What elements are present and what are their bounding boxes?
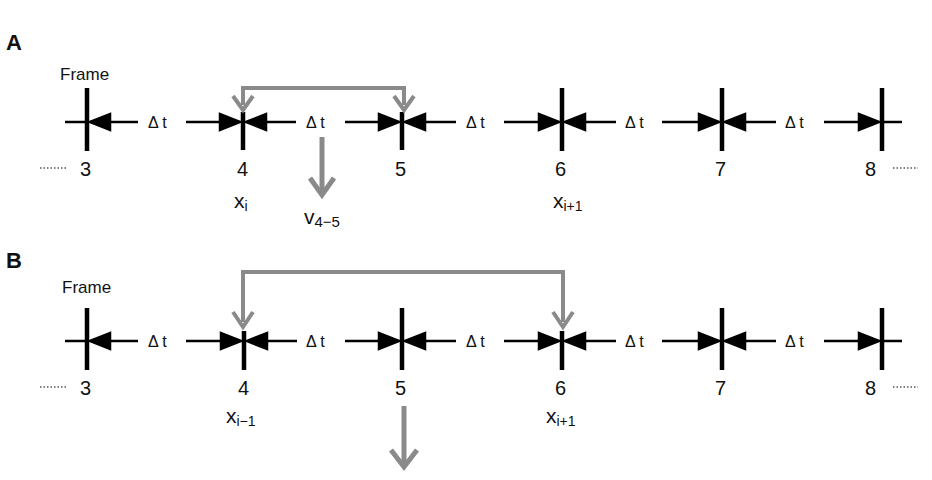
delta-t-label: Δ t: [785, 114, 804, 131]
frame-number-3: 3: [80, 377, 91, 399]
frame-number-4: 4: [237, 158, 248, 180]
frame-number-5: 5: [395, 377, 406, 399]
frame-number-7: 7: [715, 158, 726, 180]
frame-numbers: 3 4 5 6 7 8: [80, 377, 876, 399]
sampling-bracket: [233, 88, 414, 110]
position-label-x-i: xi: [234, 189, 248, 214]
frame-number-8: 8: [865, 377, 876, 399]
delta-t-label: Δ t: [785, 333, 804, 350]
frame-number-7: 7: [715, 377, 726, 399]
frame-numbers: 3 4 5 6 7 8: [80, 158, 876, 180]
frame-number-3: 3: [80, 158, 91, 180]
frame-number-6: 6: [555, 158, 566, 180]
velocity-output-arrow: [310, 137, 334, 195]
velocity-label-v-4-5: v4−5: [304, 205, 340, 230]
position-label-x-i-plus-1: xi+1: [546, 404, 576, 429]
panel-b: B Frame Δ t Δ t Δ t Δ: [6, 248, 918, 467]
delta-t-label: Δ t: [306, 114, 325, 131]
frame-number-4: 4: [238, 377, 249, 399]
position-label-x-i-minus-1: xi−1: [226, 404, 256, 429]
delta-t-label: Δ t: [306, 333, 325, 350]
panel-a: A Frame: [6, 30, 918, 230]
frame-label: Frame: [60, 65, 109, 84]
delta-t-label: Δ t: [466, 333, 485, 350]
frame-number-6: 6: [555, 377, 566, 399]
panel-label-b: B: [6, 248, 22, 273]
frame-number-5: 5: [395, 158, 406, 180]
delta-t-label: Δ t: [148, 114, 167, 131]
frame-timing-diagram: A Frame: [0, 0, 932, 480]
delta-t-label: Δ t: [466, 114, 485, 131]
frame-number-8: 8: [865, 158, 876, 180]
delta-t-label: Δ t: [148, 333, 167, 350]
position-label-x-i-plus-1: xi+1: [553, 189, 583, 214]
frame-label: Frame: [62, 278, 111, 297]
velocity-output-arrow: [391, 406, 417, 467]
delta-t-label: Δ t: [625, 333, 644, 350]
panel-label-a: A: [6, 30, 22, 55]
delta-t-label: Δ t: [625, 114, 644, 131]
